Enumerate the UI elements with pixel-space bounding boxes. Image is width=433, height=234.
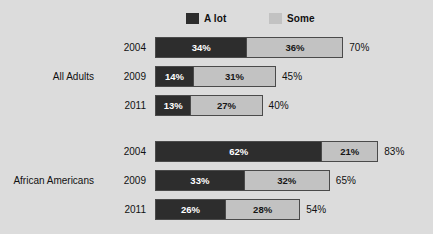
stacked-bar: 34%36% — [155, 37, 343, 58]
stacked-bar: 62%21% — [155, 141, 378, 162]
chart-row: 200462%21%83% — [0, 141, 433, 162]
year-label: 2011 — [98, 199, 146, 220]
bar-segment-some: 28% — [225, 200, 299, 219]
year-label: 2009 — [98, 170, 146, 191]
bar-segment-a-lot: 33% — [156, 171, 244, 190]
chart-row: 200914%31%45% — [0, 66, 433, 87]
chart-row: 200434%36%70% — [0, 37, 433, 58]
year-label: 2009 — [98, 66, 146, 87]
chart-row: 201126%28%54% — [0, 199, 433, 220]
year-label: 2004 — [98, 37, 146, 58]
total-label: 45% — [282, 66, 302, 87]
stacked-bar: 33%32% — [155, 170, 330, 191]
bar-segment-a-lot: 26% — [156, 200, 225, 219]
stacked-bar: 26%28% — [155, 199, 300, 220]
year-label: 2011 — [98, 95, 146, 116]
bar-segment-a-lot: 62% — [156, 142, 321, 161]
total-label: 40% — [269, 95, 289, 116]
bar-segment-a-lot: 13% — [156, 96, 190, 115]
chart-row: 201113%27%40% — [0, 95, 433, 116]
stacked-bar: 13%27% — [155, 95, 263, 116]
plot-area: All Adults200434%36%70%200914%31%45%2011… — [0, 0, 433, 234]
total-label: 70% — [349, 37, 369, 58]
bar-segment-some: 31% — [193, 67, 275, 86]
stacked-bar: 14%31% — [155, 66, 276, 87]
total-label: 83% — [384, 141, 404, 162]
bar-segment-a-lot: 14% — [156, 67, 193, 86]
stacked-bar-chart: A lot Some All Adults200434%36%70%200914… — [0, 0, 433, 234]
year-label: 2004 — [98, 141, 146, 162]
chart-row: 200933%32%65% — [0, 170, 433, 191]
bar-segment-some: 36% — [246, 38, 342, 57]
total-label: 54% — [306, 199, 326, 220]
bar-segment-some: 27% — [190, 96, 261, 115]
total-label: 65% — [336, 170, 356, 191]
bar-segment-a-lot: 34% — [156, 38, 246, 57]
bar-segment-some: 32% — [244, 171, 329, 190]
bar-segment-some: 21% — [321, 142, 377, 161]
